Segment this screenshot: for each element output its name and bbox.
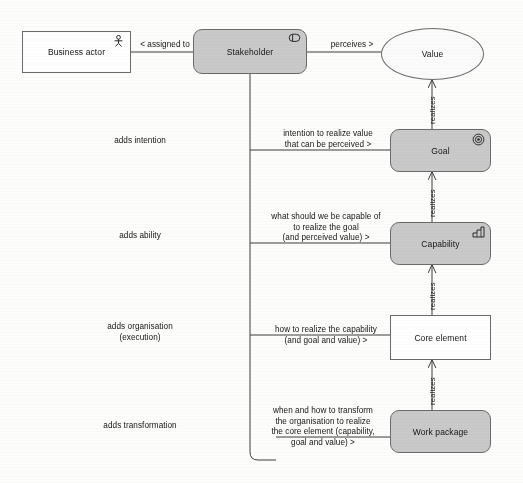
relation-label-realizes-core-element: realizes bbox=[428, 377, 437, 405]
question-organisation: how to realize the capability (and goal … bbox=[260, 325, 392, 346]
stakeholder-icon bbox=[288, 33, 301, 45]
goal-target-icon bbox=[472, 133, 485, 145]
stage-label-intention: adds intention bbox=[76, 136, 204, 147]
node-work-package[interactable]: Work package bbox=[390, 410, 491, 453]
capability-stairs-icon bbox=[472, 226, 485, 238]
node-value[interactable]: Value bbox=[381, 28, 484, 80]
stage-label-transformation: adds transformation bbox=[70, 421, 210, 432]
stage-label-organisation-line2: (execution) bbox=[76, 333, 204, 344]
node-label: Core element bbox=[414, 333, 466, 343]
node-label: Value bbox=[422, 49, 444, 59]
relation-label-realizes-value: realizes bbox=[428, 96, 437, 124]
node-label: Work package bbox=[413, 427, 468, 437]
node-label: Stakeholder bbox=[227, 47, 273, 57]
question-transformation: when and how to transform the organisati… bbox=[252, 406, 394, 448]
node-stakeholder[interactable]: Stakeholder bbox=[193, 29, 307, 74]
stage-label-organisation-line1: adds organisation bbox=[76, 322, 204, 333]
stage-label-ability: adds ability bbox=[76, 231, 204, 242]
node-core-element[interactable]: Core element bbox=[390, 315, 491, 360]
stage-label-organisation: adds organisation (execution) bbox=[76, 322, 204, 343]
relation-label-perceives: perceives > bbox=[317, 40, 387, 51]
relation-label-realizes-goal: realizes bbox=[428, 189, 437, 217]
relation-label-realizes-capability: realizes bbox=[428, 282, 437, 310]
diagram-canvas: Business actor Stakeholder Value Goal bbox=[0, 0, 523, 483]
node-label: Goal bbox=[431, 146, 449, 156]
node-label: Business actor bbox=[48, 47, 105, 57]
question-intention: intention to realize value that can be p… bbox=[266, 129, 390, 150]
relation-label-assigned-to: < assigned to bbox=[133, 40, 197, 51]
node-goal[interactable]: Goal bbox=[390, 129, 491, 172]
business-actor-icon bbox=[112, 35, 125, 47]
question-ability: what should we be capable of to realize … bbox=[258, 212, 394, 244]
node-label: Capability bbox=[421, 239, 459, 249]
node-capability[interactable]: Capability bbox=[390, 222, 491, 265]
node-business-actor[interactable]: Business actor bbox=[22, 31, 131, 73]
